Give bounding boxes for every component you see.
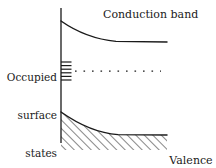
valence-band-hatched-region xyxy=(61,108,170,150)
conduction-band-curve xyxy=(61,21,167,42)
occupied-surface-states-line-2: surface xyxy=(2,109,57,122)
conduction-band-label: Conduction band xyxy=(103,8,198,21)
valence-band-line-1: Valence xyxy=(168,154,214,167)
band-diagram-figure: Occupied surface states Conduction band … xyxy=(0,0,216,168)
occupied-surface-states-line-3: states xyxy=(2,147,57,160)
occupied-surface-states-label: Occupied surface states xyxy=(2,45,57,168)
occupied-surface-states-line-1: Occupied xyxy=(2,71,57,84)
valence-band-label: Valence band xyxy=(168,127,214,168)
surface-state-ticks xyxy=(61,62,72,80)
